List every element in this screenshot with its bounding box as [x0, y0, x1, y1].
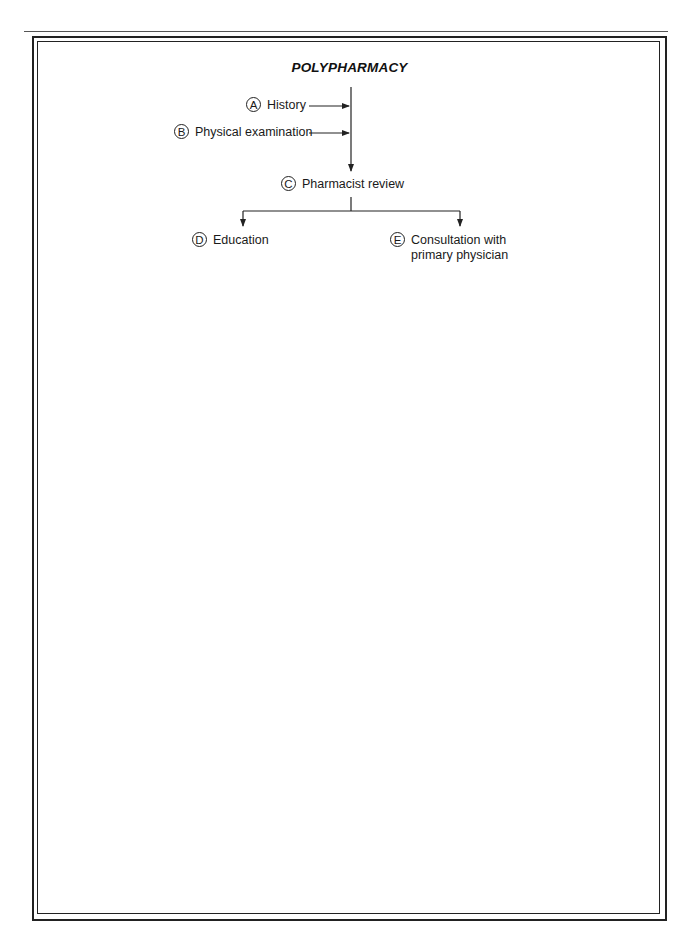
- node-history: AHistory: [246, 98, 306, 113]
- badge-c-icon: C: [281, 176, 296, 191]
- node-education: DEducation: [192, 233, 269, 248]
- badge-e-icon: E: [390, 232, 405, 247]
- badge-b-icon: B: [174, 124, 189, 139]
- badge-d-icon: D: [192, 232, 207, 247]
- badge-a-icon: A: [246, 97, 261, 112]
- node-physical-exam: BPhysical examination: [174, 125, 312, 140]
- node-education-label: Education: [213, 233, 269, 247]
- node-history-label: History: [267, 98, 306, 112]
- node-physical-exam-label: Physical examination: [195, 125, 312, 139]
- node-pharmacist-review-label: Pharmacist review: [302, 177, 404, 191]
- node-consultation: EConsultation withprimary physician: [390, 233, 508, 263]
- node-consultation-line1: Consultation with: [411, 233, 508, 248]
- flowchart-connectors: [0, 0, 699, 944]
- node-consultation-line2: primary physician: [411, 248, 508, 263]
- node-pharmacist-review: CPharmacist review: [281, 177, 404, 192]
